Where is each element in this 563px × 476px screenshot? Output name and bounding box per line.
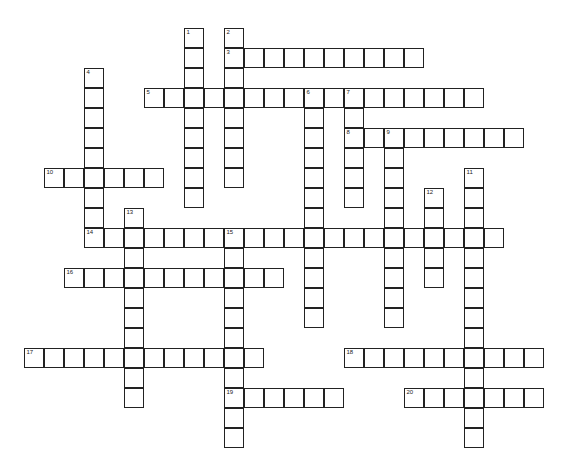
crossword-cell[interactable] xyxy=(404,88,424,108)
crossword-cell[interactable] xyxy=(384,308,404,328)
crossword-cell[interactable] xyxy=(124,368,144,388)
crossword-cell[interactable] xyxy=(184,188,204,208)
crossword-cell[interactable] xyxy=(144,168,164,188)
crossword-cell[interactable] xyxy=(44,348,64,368)
crossword-cell[interactable] xyxy=(284,88,304,108)
crossword-cell[interactable] xyxy=(204,348,224,368)
crossword-cell[interactable] xyxy=(464,208,484,228)
crossword-cell[interactable] xyxy=(464,388,484,408)
crossword-cell[interactable] xyxy=(224,348,244,368)
crossword-cell[interactable] xyxy=(324,388,344,408)
crossword-cell[interactable] xyxy=(464,88,484,108)
crossword-cell[interactable] xyxy=(124,348,144,368)
crossword-cell[interactable] xyxy=(124,328,144,348)
crossword-cell[interactable] xyxy=(364,128,384,148)
crossword-cell[interactable] xyxy=(404,228,424,248)
crossword-cell[interactable] xyxy=(224,408,244,428)
crossword-cell[interactable] xyxy=(224,68,244,88)
crossword-cell[interactable] xyxy=(444,128,464,148)
crossword-cell[interactable] xyxy=(504,348,524,368)
crossword-cell[interactable] xyxy=(184,168,204,188)
crossword-cell[interactable] xyxy=(464,268,484,288)
crossword-cell[interactable] xyxy=(284,228,304,248)
crossword-cell[interactable] xyxy=(104,268,124,288)
crossword-cell[interactable]: 3 xyxy=(224,48,244,68)
crossword-cell[interactable] xyxy=(344,148,364,168)
crossword-cell[interactable] xyxy=(444,228,464,248)
crossword-cell[interactable] xyxy=(404,128,424,148)
crossword-cell[interactable] xyxy=(224,268,244,288)
crossword-cell[interactable] xyxy=(64,348,84,368)
crossword-cell[interactable] xyxy=(64,168,84,188)
crossword-cell[interactable] xyxy=(144,268,164,288)
crossword-cell[interactable] xyxy=(104,348,124,368)
crossword-cell[interactable] xyxy=(304,268,324,288)
crossword-cell[interactable] xyxy=(244,388,264,408)
crossword-cell[interactable] xyxy=(384,208,404,228)
crossword-cell[interactable] xyxy=(284,48,304,68)
crossword-cell[interactable]: 10 xyxy=(44,168,64,188)
crossword-cell[interactable] xyxy=(464,348,484,368)
crossword-cell[interactable] xyxy=(144,348,164,368)
crossword-cell[interactable] xyxy=(504,128,524,148)
crossword-cell[interactable]: 19 xyxy=(224,388,244,408)
crossword-cell[interactable]: 6 xyxy=(304,88,324,108)
crossword-cell[interactable] xyxy=(384,168,404,188)
crossword-cell[interactable] xyxy=(424,248,444,268)
crossword-cell[interactable] xyxy=(284,388,304,408)
crossword-cell[interactable] xyxy=(164,88,184,108)
crossword-cell[interactable] xyxy=(224,368,244,388)
crossword-cell[interactable] xyxy=(224,428,244,448)
crossword-cell[interactable] xyxy=(164,268,184,288)
crossword-cell[interactable] xyxy=(424,348,444,368)
crossword-cell[interactable] xyxy=(184,108,204,128)
crossword-cell[interactable] xyxy=(484,128,504,148)
crossword-cell[interactable] xyxy=(244,348,264,368)
crossword-cell[interactable] xyxy=(124,168,144,188)
crossword-cell[interactable] xyxy=(384,268,404,288)
crossword-cell[interactable] xyxy=(344,48,364,68)
crossword-cell[interactable] xyxy=(304,128,324,148)
crossword-cell[interactable] xyxy=(264,388,284,408)
crossword-cell[interactable]: 11 xyxy=(464,168,484,188)
crossword-cell[interactable] xyxy=(464,408,484,428)
crossword-cell[interactable]: 18 xyxy=(344,348,364,368)
crossword-cell[interactable] xyxy=(304,168,324,188)
crossword-cell[interactable]: 15 xyxy=(224,228,244,248)
crossword-cell[interactable] xyxy=(304,228,324,248)
crossword-cell[interactable] xyxy=(304,108,324,128)
crossword-cell[interactable] xyxy=(84,108,104,128)
crossword-cell[interactable] xyxy=(84,208,104,228)
crossword-cell[interactable] xyxy=(224,128,244,148)
crossword-cell[interactable] xyxy=(84,128,104,148)
crossword-cell[interactable] xyxy=(424,88,444,108)
crossword-cell[interactable] xyxy=(124,388,144,408)
crossword-cell[interactable]: 14 xyxy=(84,228,104,248)
crossword-cell[interactable] xyxy=(264,88,284,108)
crossword-cell[interactable]: 13 xyxy=(124,208,144,228)
crossword-cell[interactable] xyxy=(484,348,504,368)
crossword-cell[interactable] xyxy=(224,88,244,108)
crossword-cell[interactable] xyxy=(84,188,104,208)
crossword-cell[interactable] xyxy=(464,308,484,328)
crossword-cell[interactable] xyxy=(204,228,224,248)
crossword-cell[interactable] xyxy=(324,228,344,248)
crossword-cell[interactable] xyxy=(104,168,124,188)
crossword-cell[interactable] xyxy=(424,228,444,248)
crossword-cell[interactable] xyxy=(364,48,384,68)
crossword-cell[interactable] xyxy=(384,248,404,268)
crossword-cell[interactable] xyxy=(324,88,344,108)
crossword-cell[interactable] xyxy=(264,228,284,248)
crossword-cell[interactable] xyxy=(344,108,364,128)
crossword-cell[interactable] xyxy=(504,388,524,408)
crossword-cell[interactable] xyxy=(464,428,484,448)
crossword-cell[interactable] xyxy=(444,348,464,368)
crossword-cell[interactable] xyxy=(184,48,204,68)
crossword-cell[interactable] xyxy=(304,148,324,168)
crossword-cell[interactable] xyxy=(444,88,464,108)
crossword-cell[interactable] xyxy=(184,128,204,148)
crossword-cell[interactable] xyxy=(204,268,224,288)
crossword-cell[interactable] xyxy=(364,88,384,108)
crossword-cell[interactable] xyxy=(384,88,404,108)
crossword-cell[interactable] xyxy=(404,48,424,68)
